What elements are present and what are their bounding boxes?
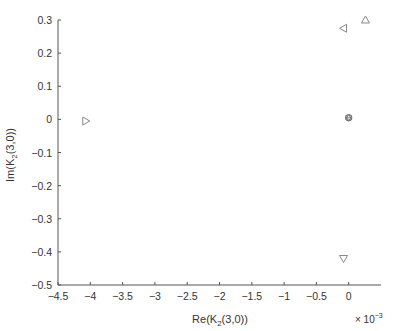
x-tick-label: −2 xyxy=(214,290,226,302)
triangle-up-marker xyxy=(361,16,369,23)
y-tick-label: 0 xyxy=(46,113,52,125)
x-axis-label: Re(K2(3,0)) xyxy=(192,313,248,328)
y-tick-label: 0.1 xyxy=(37,80,52,92)
y-tick-label: 0.2 xyxy=(37,47,52,59)
x-tick-label: −1.5 xyxy=(241,290,262,302)
x-tick-label: −3.5 xyxy=(112,290,133,302)
y-axis-label: Im(K2(3,0)) xyxy=(4,128,19,182)
scatter-chart: −4.5−4−3.5−3−2.5−2−1.5−1−0.50 0.30.20.10… xyxy=(0,0,395,331)
y-tick-label: 0.3 xyxy=(37,14,52,26)
y-ticks: 0.30.20.10−0.1−0.2−0.3−0.4−0.5 xyxy=(31,14,61,291)
y-tick-label: −0.2 xyxy=(31,180,52,192)
triangle-right-marker xyxy=(83,117,90,125)
x-tick-label: −4.5 xyxy=(48,290,69,302)
triangle-down-marker xyxy=(340,256,348,263)
data-points xyxy=(83,16,370,263)
x-tick-label: −1 xyxy=(278,290,290,302)
axes xyxy=(58,20,381,285)
y-tick-label: −0.3 xyxy=(31,213,52,225)
x-tick-label: −0.5 xyxy=(306,290,327,302)
y-tick-label: −0.1 xyxy=(31,147,52,159)
y-tick-label: −0.5 xyxy=(31,279,52,291)
x-tick-label: −4 xyxy=(84,290,96,302)
x-tick-label: 0 xyxy=(346,290,352,302)
x-tick-label: −3 xyxy=(149,290,161,302)
y-tick-label: −0.4 xyxy=(31,246,52,258)
x-multiplier: × 10−3 xyxy=(355,312,383,325)
x-tick-label: −2.5 xyxy=(177,290,198,302)
origin-cluster-marker xyxy=(346,114,352,121)
triangle-left-marker xyxy=(340,24,347,32)
